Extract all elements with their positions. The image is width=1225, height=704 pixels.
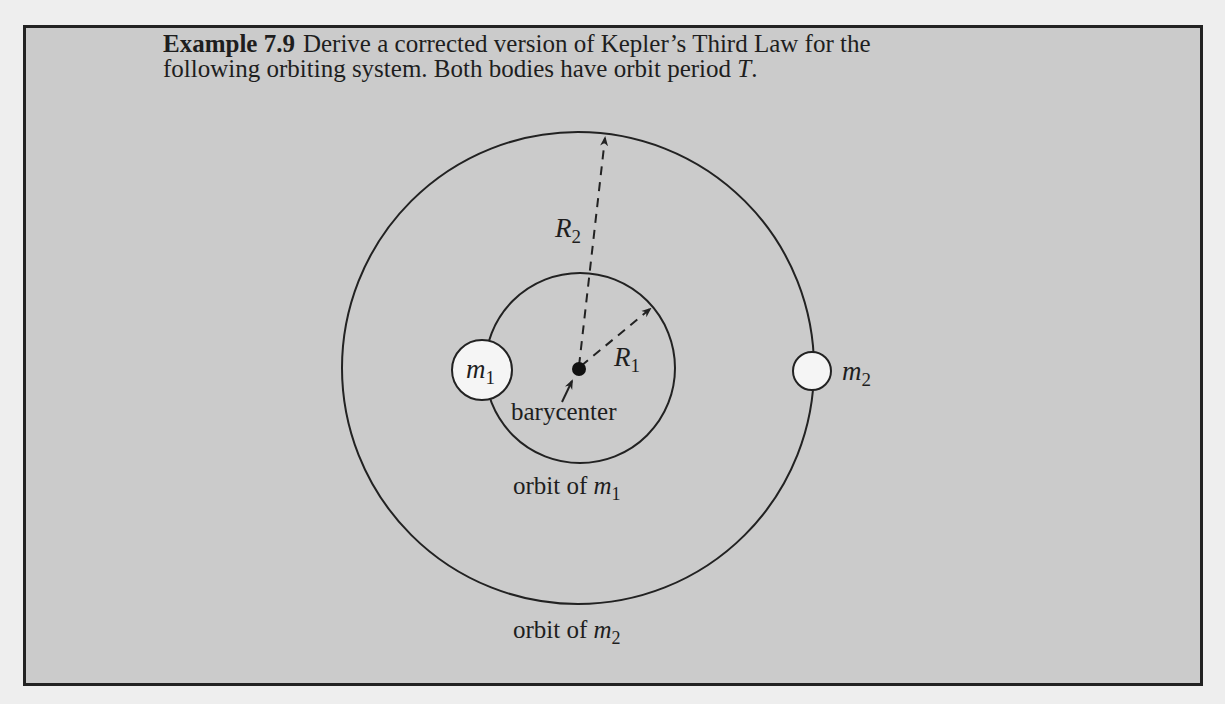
- body-m2: [793, 352, 831, 390]
- orbit-m1-label: orbit of m1: [513, 472, 621, 504]
- orbit-m2-label: orbit of m2: [513, 616, 621, 648]
- barycenter-label: barycenter: [511, 398, 617, 425]
- orbit-diagram: m1 m2 R2 R1 barycenter orbit of m1 orbit…: [0, 0, 1225, 704]
- body-m2-label: m2: [842, 356, 871, 390]
- r2-label: R2: [554, 213, 581, 247]
- r1-label: R1: [613, 342, 640, 376]
- radius-r2-arrow: [579, 138, 605, 366]
- barycenter-dot: [572, 362, 586, 376]
